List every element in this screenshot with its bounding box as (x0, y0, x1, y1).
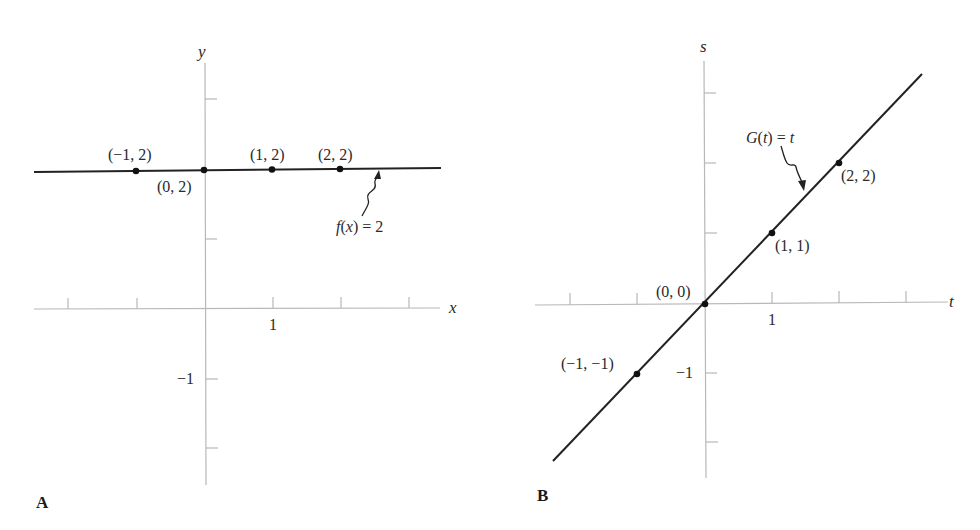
point-label: (0, 0) (656, 283, 691, 301)
pointer-arrow-icon (362, 170, 381, 216)
s-axis-label: s (700, 37, 707, 56)
point-label: (−1, −1) (561, 355, 614, 373)
function-line-g (553, 74, 922, 461)
s-axis (704, 61, 706, 478)
point-label: (1, 1) (775, 237, 810, 255)
y-tick-label-neg1: −1 (177, 370, 194, 387)
data-point (133, 168, 140, 175)
data-point (634, 371, 641, 378)
y-axis-label: y (196, 42, 206, 61)
point-label: (−1, 2) (108, 146, 152, 164)
y-ticks (205, 99, 218, 448)
data-point (337, 166, 344, 173)
x-tick-label-1: 1 (269, 316, 277, 333)
t-axis-label: t (949, 292, 955, 311)
pointer-arrow-icon (781, 146, 806, 191)
t-axis (535, 302, 948, 305)
data-point (769, 230, 776, 237)
data-point (702, 301, 709, 308)
s-tick-label-neg1: −1 (676, 364, 693, 381)
x-ticks (68, 297, 409, 309)
point-label: (1, 2) (250, 146, 285, 164)
point-label: (0, 2) (157, 178, 192, 196)
panel-label-a: A (36, 493, 49, 512)
function-label-f: f(x) = 2 (336, 218, 383, 236)
data-point (269, 166, 276, 173)
t-tick-label-1: 1 (768, 311, 776, 328)
data-point (836, 160, 843, 167)
x-axis-label: x (448, 298, 457, 317)
point-label: (2, 2) (841, 167, 876, 185)
figure: x y 1 −1 (−1, 2) (0, 2) (1, 2) (2, 2) f(… (0, 0, 980, 530)
x-axis (34, 308, 440, 309)
graph-b: t s 1 −1 (−1, −1) (0, 0) (1, 1) (2, 2) G… (535, 37, 955, 505)
panel-label-b: B (537, 486, 548, 505)
point-label: (2, 2) (318, 146, 353, 164)
graph-a: x y 1 −1 (−1, 2) (0, 2) (1, 2) (2, 2) f(… (34, 42, 457, 512)
function-label-g: G(t) = t (746, 129, 795, 147)
function-line-f (34, 168, 441, 172)
y-axis (205, 63, 206, 485)
data-point (201, 167, 208, 174)
